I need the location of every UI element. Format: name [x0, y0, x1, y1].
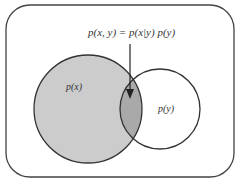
set-y-label: p(y): [158, 104, 174, 114]
joint-probability-formula: p(x, y) = p(x|y) p(y): [88, 27, 175, 38]
set-x-label: p(x): [66, 82, 82, 92]
